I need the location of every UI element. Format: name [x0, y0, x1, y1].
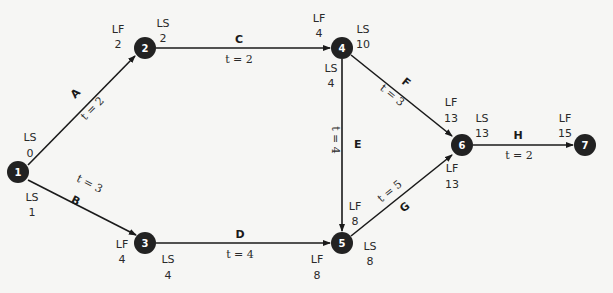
- node-6: 6: [451, 134, 473, 156]
- duration-label-a: t = 2: [78, 94, 107, 123]
- duration-label-b: t = 3: [74, 172, 105, 196]
- svg-text:8: 8: [314, 269, 321, 282]
- svg-text:4: 4: [316, 27, 323, 40]
- annotation-n2-lf: LF 2: [112, 23, 124, 51]
- svg-text:15: 15: [558, 127, 572, 140]
- edges: [28, 48, 573, 243]
- duration-label-e: t = 4: [329, 126, 342, 154]
- node-1: 1: [7, 161, 29, 183]
- annotation-n6-lf-f: LF 13: [444, 96, 458, 125]
- svg-text:LF: LF: [445, 96, 457, 109]
- svg-text:LS: LS: [475, 112, 488, 125]
- duration-label-h: t = 2: [505, 149, 533, 162]
- annotation-n5-ls: LS 8: [363, 240, 376, 268]
- node-3: 3: [134, 232, 156, 254]
- svg-text:13: 13: [445, 178, 459, 191]
- svg-text:4: 4: [165, 269, 172, 282]
- svg-text:LS: LS: [23, 131, 36, 144]
- activity-label-g: G: [397, 199, 412, 215]
- svg-text:LF: LF: [116, 238, 128, 251]
- svg-text:1: 1: [15, 167, 22, 178]
- svg-text:LS: LS: [363, 240, 376, 253]
- node-4: 4: [331, 37, 353, 59]
- svg-text:LF: LF: [311, 253, 323, 266]
- edge-b: [28, 180, 136, 235]
- annotation-n1-ls-a: LS 0: [23, 131, 36, 160]
- svg-text:LS: LS: [161, 253, 174, 266]
- duration-label-d: t = 4: [226, 248, 254, 261]
- annotation-n5-lf-e: LF 8: [349, 200, 361, 228]
- node-7: 7: [574, 134, 596, 156]
- activity-label-a: A: [68, 86, 84, 102]
- annotation-n1-ls-b: LS 1: [25, 191, 38, 219]
- annotation-n5-lf-d: LF 8: [311, 253, 323, 282]
- annotation-n7-lf: LF 15: [558, 112, 572, 140]
- duration-label-c: t = 2: [225, 53, 253, 66]
- svg-text:LS: LS: [324, 62, 337, 75]
- svg-text:LS: LS: [356, 23, 369, 36]
- svg-text:LS: LS: [156, 17, 169, 30]
- svg-text:7: 7: [582, 140, 589, 151]
- svg-text:LF: LF: [349, 200, 361, 213]
- svg-text:8: 8: [352, 215, 359, 228]
- svg-text:LF: LF: [446, 162, 458, 175]
- svg-text:13: 13: [475, 127, 489, 140]
- svg-text:4: 4: [339, 43, 346, 54]
- svg-text:6: 6: [459, 140, 466, 151]
- activity-label-h: H: [513, 129, 522, 142]
- svg-text:LF: LF: [112, 23, 124, 36]
- activity-label-d: D: [235, 228, 244, 241]
- svg-text:0: 0: [27, 147, 34, 160]
- node-2: 2: [134, 37, 156, 59]
- svg-text:4: 4: [328, 77, 335, 90]
- activity-label-f: F: [399, 75, 413, 90]
- svg-text:LF: LF: [559, 112, 571, 125]
- annotation-n2-ls: LS 2: [156, 17, 169, 45]
- svg-text:2: 2: [115, 38, 122, 51]
- edge-g: [351, 155, 452, 236]
- activity-label-e: E: [354, 138, 362, 151]
- annotation-n4-ls-f: LS 10: [356, 23, 370, 51]
- svg-text:LF: LF: [313, 12, 325, 25]
- annotation-n4-lf: LF 4: [313, 12, 325, 40]
- duration-label-g: t = 5: [375, 178, 405, 205]
- svg-text:LS: LS: [25, 191, 38, 204]
- svg-text:10: 10: [356, 38, 370, 51]
- svg-text:13: 13: [444, 112, 458, 125]
- annotation-n4-ls-e: LS 4: [324, 62, 337, 90]
- svg-text:5: 5: [339, 238, 346, 249]
- annotation-n6-ls: LS 13: [475, 112, 489, 140]
- node-5: 5: [331, 232, 353, 254]
- svg-text:1: 1: [29, 206, 36, 219]
- svg-text:4: 4: [119, 253, 126, 266]
- network-diagram: 1 2 3 4 5 6 7 A t = 2 B t = 3 C t = 2 D …: [0, 0, 613, 293]
- annotation-n3-ls: LS 4: [161, 253, 174, 282]
- svg-text:3: 3: [142, 238, 149, 249]
- activity-label-c: C: [235, 33, 243, 46]
- svg-text:2: 2: [160, 32, 167, 45]
- annotation-n6-lf-g: LF 13: [445, 162, 459, 191]
- svg-text:2: 2: [142, 43, 149, 54]
- svg-text:8: 8: [367, 255, 374, 268]
- annotation-n3-lf: LF 4: [116, 238, 128, 266]
